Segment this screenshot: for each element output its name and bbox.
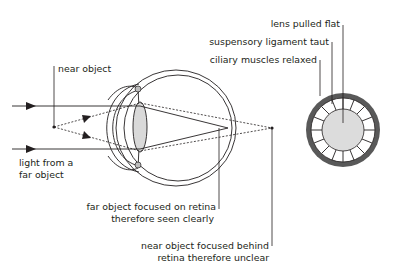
ciliary-body-bottom	[135, 162, 141, 168]
label-ligament-taut: suspensory ligament taut	[209, 36, 329, 47]
lens-flat	[133, 102, 147, 152]
arrow-icon	[82, 131, 91, 139]
arrow-icon	[26, 145, 36, 153]
label-light-far-1: light from a	[19, 157, 73, 168]
eye-focus-diagram: near object light from a far object far …	[0, 0, 394, 278]
ciliary-body-top	[135, 86, 141, 92]
eyeball-cross-section	[107, 70, 236, 186]
label-near-object: near object	[58, 63, 112, 74]
arrow-icon	[82, 115, 91, 123]
arrow-icon	[26, 102, 36, 110]
label-near-behind-1: near object focused behind	[141, 240, 269, 251]
label-ciliary-relaxed: ciliary muscles relaxed	[210, 54, 317, 65]
label-far-focused-2: therefore seen clearly	[111, 213, 214, 224]
label-far-focused-1: far object focused on retina	[86, 201, 216, 212]
label-near-behind-2: retina therefore unclear	[157, 252, 269, 263]
label-lens-flat: lens pulled flat	[271, 18, 341, 29]
label-light-far-2: far object	[19, 169, 64, 180]
